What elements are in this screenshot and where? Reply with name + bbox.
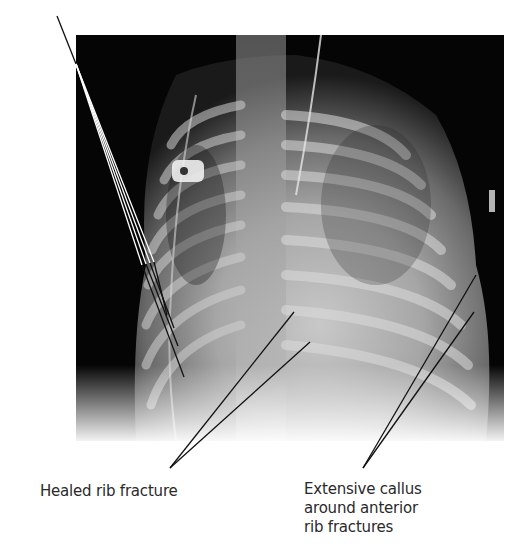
label-line: Healed rib fracture — [40, 482, 178, 501]
left-leader-lines — [57, 16, 184, 377]
label-line: rib fractures — [304, 518, 422, 537]
annotated-figure: Healed rib fracture Extensive callus aro… — [0, 0, 514, 550]
label-line: around anterior — [304, 499, 422, 518]
label-extensive-callus: Extensive callus around anterior rib fra… — [304, 480, 422, 537]
callus-leader-lines — [363, 275, 476, 468]
label-line: Extensive callus — [304, 480, 422, 499]
label-healed-rib-fracture: Healed rib fracture — [40, 482, 178, 501]
leader-lines — [0, 0, 514, 550]
healed-fracture-leader-lines — [170, 312, 310, 468]
